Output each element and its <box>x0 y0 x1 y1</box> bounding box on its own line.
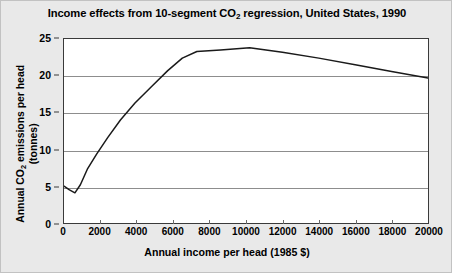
series-line-co2-emissions <box>64 39 428 223</box>
y-tick-label-0: 0 <box>45 218 51 230</box>
plot-area <box>63 38 429 224</box>
y-tick-label-15: 15 <box>39 106 51 118</box>
x-axis-title: Annual income per head (1985 $) <box>1 246 452 258</box>
x-tick-mark-2000 <box>100 220 101 224</box>
x-tick-label-18000: 18000 <box>378 226 406 237</box>
y-axis-tick-labels: 0510152025 <box>1 38 59 224</box>
chart-title: Income effects from 10-segment CO2 regre… <box>1 7 452 21</box>
x-tick-label-16000: 16000 <box>342 226 370 237</box>
x-tick-mark-16000 <box>356 220 357 224</box>
y-tick-label-25: 25 <box>39 32 51 44</box>
y-tick-mark-10 <box>54 149 59 150</box>
chart-title-text-before: Income effects from 10-segment CO <box>48 7 236 19</box>
y-tick-mark-20 <box>54 75 59 76</box>
chart-title-text-after: regression, United States, 1990 <box>240 7 406 19</box>
chart-figure: Income effects from 10-segment CO2 regre… <box>0 0 452 273</box>
x-tick-label-6000: 6000 <box>162 226 184 237</box>
x-tick-label-12000: 12000 <box>269 226 297 237</box>
y-tick-mark-15 <box>54 112 59 113</box>
x-tick-mark-4000 <box>136 220 137 224</box>
x-tick-mark-18000 <box>392 220 393 224</box>
x-axis-tick-marks <box>63 219 429 224</box>
y-tick-label-5: 5 <box>45 181 51 193</box>
x-tick-label-2000: 2000 <box>88 226 110 237</box>
y-tick-mark-5 <box>54 186 59 187</box>
x-tick-mark-12000 <box>283 220 284 224</box>
y-tick-mark-25 <box>54 38 59 39</box>
x-tick-mark-6000 <box>173 220 174 224</box>
series-polyline <box>64 48 428 193</box>
x-axis-tick-labels: 0200040006000800010000120001400016000180… <box>63 226 429 242</box>
y-tick-mark-0 <box>54 224 59 225</box>
x-tick-label-14000: 14000 <box>305 226 333 237</box>
x-tick-label-4000: 4000 <box>125 226 147 237</box>
x-tick-label-0: 0 <box>60 226 66 237</box>
x-tick-mark-10000 <box>246 220 247 224</box>
x-tick-label-8000: 8000 <box>198 226 220 237</box>
y-tick-label-10: 10 <box>39 144 51 156</box>
x-tick-label-20000: 20000 <box>415 226 443 237</box>
x-tick-label-10000: 10000 <box>232 226 260 237</box>
x-tick-mark-8000 <box>209 220 210 224</box>
y-tick-label-20: 20 <box>39 69 51 81</box>
x-tick-mark-14000 <box>319 220 320 224</box>
